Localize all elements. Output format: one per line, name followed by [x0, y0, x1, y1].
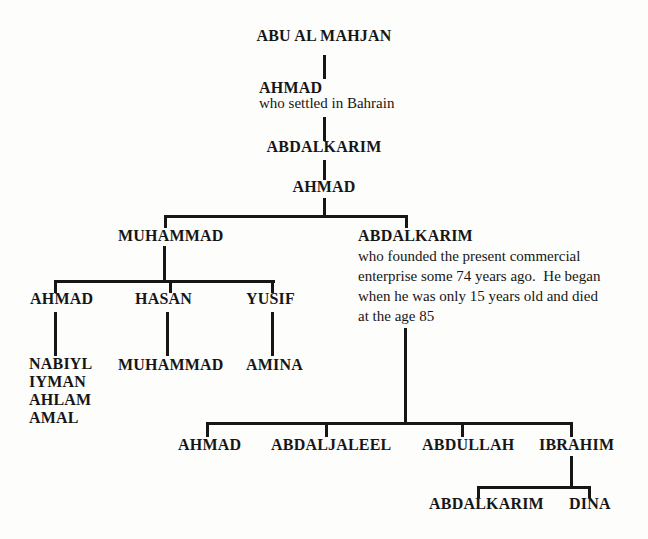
gen5-horizontal-bar: [164, 215, 408, 218]
note-ahmad-gen2: who settled in Bahrain: [259, 96, 394, 111]
person-abu-al-mahjan: ABU AL MAHJAN: [256, 28, 391, 44]
gen5-tick-muhammad: [164, 215, 167, 228]
gen6-right-tick-abdaljaleel: [325, 422, 328, 437]
person-ibrahim: IBRAHIM: [539, 437, 614, 453]
person-abdalkarim-gen7: ABDALKARIM: [429, 496, 544, 512]
person-ahmad-gen6-right: AHMAD: [178, 437, 241, 453]
gen6-right-tick-ahmad: [206, 422, 209, 437]
gen6-left-horizontal-bar: [54, 280, 275, 283]
person-ahlam: AHLAM: [29, 391, 92, 409]
person-hasan: HASAN: [135, 291, 192, 307]
person-iyman: IYMAN: [29, 373, 92, 391]
person-ahmad-gen4: AHMAD: [292, 179, 355, 195]
abdalkarim-gen5-down-line: [404, 328, 407, 424]
family-tree-diagram: ABU AL MAHJAN AHMAD who settled in Bahra…: [0, 0, 648, 539]
note-line-3: when he was only 15 years old and died: [358, 286, 600, 306]
children-of-ahmad-gen6: NABIYL IYMAN AHLAM AMAL: [29, 355, 92, 427]
spine-line-gen2-to-gen3: [323, 117, 326, 141]
muhammad-down-line: [163, 246, 166, 283]
gen5-tick-abdalkarim: [405, 215, 408, 228]
spine-line-gen3-to-gen4: [323, 160, 326, 180]
person-ahmad-gen6-left: AHMAD: [30, 291, 93, 307]
gen6-right-tick-abdullah: [461, 422, 464, 437]
ibrahim-down-line: [570, 456, 573, 488]
ahmad-gen6-down-line: [54, 312, 57, 356]
person-amina: AMINA: [246, 357, 303, 373]
yusif-down-line: [271, 312, 274, 356]
spine-line-root-to-gen2: [323, 55, 326, 79]
gen6-tick-yusif: [271, 280, 274, 293]
person-abdalkarim-gen3: ABDALKARIM: [267, 139, 382, 155]
gen6-right-tick-ibrahim: [570, 422, 573, 437]
person-dina: DINA: [569, 496, 611, 512]
note-line-4: at the age 85: [358, 306, 600, 326]
person-yusif: YUSIF: [246, 291, 295, 307]
gen7-tick-abdalkarim: [477, 486, 480, 498]
person-abdaljaleel: ABDALJALEEL: [271, 437, 391, 453]
note-abdalkarim-gen5: who founded the present commercial enter…: [358, 246, 600, 326]
person-ahmad-gen2: AHMAD: [259, 80, 322, 96]
note-line-1: who founded the present commercial: [358, 246, 600, 266]
person-abdullah: ABDULLAH: [422, 437, 514, 453]
person-muhammad-gen7: MUHAMMAD: [118, 357, 224, 373]
hasan-down-line: [166, 312, 169, 356]
gen6-tick-hasan: [169, 280, 172, 293]
person-muhammad-gen5: MUHAMMAD: [118, 228, 224, 244]
gen6-right-horizontal-bar: [206, 422, 573, 425]
person-amal: AMAL: [29, 409, 92, 427]
gen7-horizontal-bar: [477, 486, 591, 489]
note-line-2: enterprise some 74 years ago. He began: [358, 266, 600, 286]
gen6-tick-ahmad: [54, 280, 57, 293]
gen7-tick-dina: [588, 486, 591, 498]
person-nabiyl: NABIYL: [29, 355, 92, 373]
person-abdalkarim-gen5: ABDALKARIM: [358, 228, 473, 244]
